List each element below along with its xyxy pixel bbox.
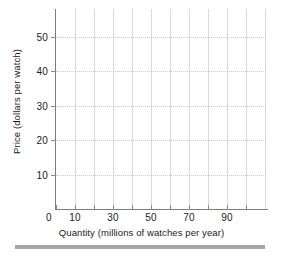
gridline-vertical bbox=[189, 9, 190, 209]
y-axis-tick bbox=[51, 37, 56, 38]
y-axis-tick-label: 50 bbox=[24, 32, 48, 43]
gridline-vertical bbox=[265, 9, 266, 209]
x-axis-tick bbox=[113, 205, 114, 210]
x-axis-tick-label: 0 bbox=[36, 212, 62, 223]
footer-rule bbox=[15, 245, 265, 249]
x-axis-tick bbox=[246, 205, 247, 210]
gridline-vertical bbox=[208, 9, 209, 209]
x-axis-tick bbox=[132, 205, 133, 210]
gridline-horizontal bbox=[56, 175, 266, 176]
x-axis-title: Quantity (millions of watches per year) bbox=[0, 227, 283, 238]
gridline-horizontal bbox=[56, 71, 266, 72]
gridline-horizontal bbox=[56, 140, 266, 141]
x-axis-tick bbox=[56, 205, 57, 210]
y-axis-tick-label: 10 bbox=[24, 170, 48, 181]
x-axis-tick-label: 10 bbox=[62, 212, 88, 223]
gridline-vertical bbox=[170, 9, 171, 209]
plot-area bbox=[56, 9, 266, 209]
y-axis-title: Price (dollars per watch) bbox=[11, 22, 22, 182]
x-axis-tick bbox=[189, 205, 190, 210]
gridline-horizontal bbox=[56, 37, 266, 38]
x-axis-tick-label: 30 bbox=[100, 212, 126, 223]
gridline-vertical bbox=[151, 9, 152, 209]
y-axis-tick-label: 20 bbox=[24, 135, 48, 146]
x-axis-tick-label: 70 bbox=[176, 212, 202, 223]
x-axis-tick bbox=[75, 205, 76, 210]
x-axis-tick bbox=[170, 205, 171, 210]
gridline-vertical bbox=[246, 9, 247, 209]
x-axis-tick bbox=[227, 205, 228, 210]
y-axis-tick bbox=[51, 140, 56, 141]
gridline-vertical bbox=[113, 9, 114, 209]
x-axis-tick-label: 90 bbox=[214, 212, 240, 223]
chart-figure: 50 40 30 20 10 0 10 30 50 70 90 Quantity… bbox=[0, 0, 283, 256]
x-axis-tick-label: 50 bbox=[138, 212, 164, 223]
x-axis-tick bbox=[94, 205, 95, 210]
y-axis-tick bbox=[51, 175, 56, 176]
y-axis-line bbox=[55, 9, 56, 210]
gridline-horizontal bbox=[56, 106, 266, 107]
x-axis-tick bbox=[208, 205, 209, 210]
gridline-vertical bbox=[227, 9, 228, 209]
gridline-vertical bbox=[94, 9, 95, 209]
x-axis-tick bbox=[151, 205, 152, 210]
y-axis-tick-label: 40 bbox=[24, 66, 48, 77]
y-axis-tick-label: 30 bbox=[24, 101, 48, 112]
gridline-vertical bbox=[132, 9, 133, 209]
y-axis-tick bbox=[51, 71, 56, 72]
x-axis-line bbox=[56, 209, 268, 210]
y-axis-tick bbox=[51, 106, 56, 107]
gridline-vertical bbox=[75, 9, 76, 209]
